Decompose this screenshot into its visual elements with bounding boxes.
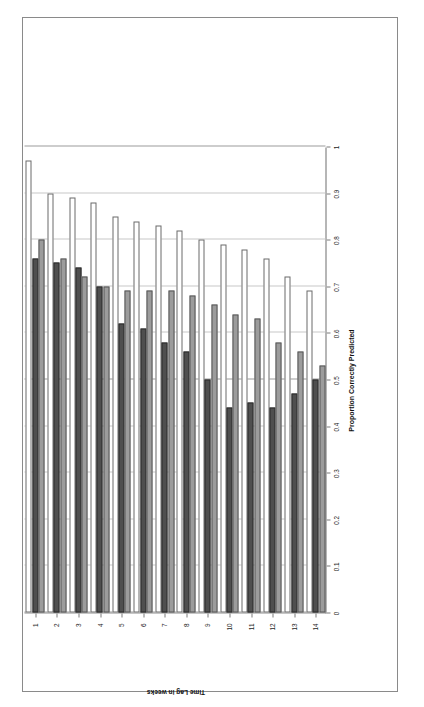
bar-group	[47, 147, 66, 612]
category-tick	[251, 613, 252, 617]
category-tick-label: 13	[290, 623, 297, 630]
category-tick-label: 1	[31, 623, 38, 627]
value-tick	[326, 519, 330, 520]
value-tick-label: 0.8	[332, 236, 339, 245]
bar-group	[112, 147, 131, 612]
category-tick-label: 5	[118, 623, 125, 627]
category-tick	[35, 613, 36, 617]
bar-asymmetric	[232, 314, 238, 612]
category-tick	[56, 613, 57, 617]
value-tick-label: 0.3	[332, 469, 339, 478]
figure-rotation-wrapper: Asymmetric Sole Symmetric Simmelian Prop…	[0, 0, 424, 707]
value-tick-label: 0.5	[332, 376, 339, 385]
category-tick-label: 3	[74, 623, 81, 627]
value-tick-label: 0	[332, 611, 339, 615]
value-tick	[326, 332, 330, 333]
category-tick-label: 11	[247, 623, 254, 630]
bar-sole-symmetric	[118, 323, 124, 612]
category-tick	[164, 613, 165, 617]
value-tick	[326, 612, 330, 613]
value-tick-label: 0.4	[332, 422, 339, 431]
bar-sole-symmetric	[312, 379, 318, 612]
bar-simmelian	[306, 290, 312, 612]
category-tick-label: 12	[269, 623, 276, 630]
category-tick	[78, 613, 79, 617]
bar-simmelian	[90, 202, 96, 612]
category-tick	[207, 613, 208, 617]
value-tick-label: 0.2	[332, 515, 339, 524]
value-tick	[326, 193, 330, 194]
category-tick	[100, 613, 101, 617]
bar-group	[263, 147, 282, 612]
arrow-right-icon: →	[175, 689, 188, 695]
category-tick-label: 4	[96, 623, 103, 627]
bar-sole-symmetric	[291, 393, 297, 612]
bar-sole-symmetric	[96, 286, 102, 612]
bar-simmelian	[220, 244, 226, 612]
bar-simmelian	[47, 193, 53, 612]
bar-sole-symmetric	[53, 263, 59, 613]
category-tick-label: 14	[312, 623, 319, 630]
category-tick-label: 10	[225, 623, 232, 630]
bar-asymmetric	[146, 290, 152, 612]
bar-asymmetric	[254, 318, 260, 612]
category-tick-label: 2	[53, 623, 60, 627]
value-tick-label: 0.9	[332, 189, 339, 198]
gridline-vertical	[24, 145, 325, 146]
plot-area	[24, 147, 326, 613]
category-tick	[121, 613, 122, 617]
value-tick	[326, 565, 330, 566]
bar-asymmetric	[81, 276, 87, 612]
value-tick-label: 0.7	[332, 282, 339, 291]
bar-group	[133, 147, 152, 612]
bar-simmelian	[133, 221, 139, 612]
bar-group	[198, 147, 217, 612]
bar-sole-symmetric	[247, 402, 253, 612]
bar-group	[90, 147, 109, 612]
bar-asymmetric	[103, 286, 109, 612]
bar-sole-symmetric	[32, 258, 38, 612]
category-tick	[229, 613, 230, 617]
category-axis-title-text: Time Lag in weeks	[146, 689, 204, 696]
category-tick-label: 6	[139, 623, 146, 627]
bar-simmelian	[155, 225, 161, 612]
value-tick	[326, 239, 330, 240]
bar-asymmetric	[319, 365, 325, 612]
value-tick-label: 1	[332, 145, 339, 149]
bar-sole-symmetric	[183, 351, 189, 612]
category-tick	[186, 613, 187, 617]
bar-simmelian	[69, 197, 75, 612]
bar-sole-symmetric	[161, 342, 167, 612]
category-tick	[315, 613, 316, 617]
category-tick-label: 8	[182, 623, 189, 627]
value-tick	[326, 146, 330, 147]
bar-simmelian	[198, 239, 204, 612]
value-tick-label: 0.1	[332, 562, 339, 571]
bar-sole-symmetric	[75, 267, 81, 612]
category-tick-label: 7	[161, 623, 168, 627]
bar-simmelian	[263, 258, 269, 612]
bar-chart-figure: Asymmetric Sole Symmetric Simmelian Prop…	[0, 0, 424, 707]
bar-asymmetric	[60, 258, 66, 612]
bar-simmelian	[241, 249, 247, 612]
category-axis-title: ← Time Lag in weeks →	[24, 677, 326, 707]
bar-group	[155, 147, 174, 612]
value-tick	[326, 379, 330, 380]
value-axis: 10.90.80.70.60.50.40.30.20.10	[326, 147, 356, 613]
bar-simmelian	[284, 276, 290, 612]
value-tick-label: 0.6	[332, 329, 339, 338]
value-tick	[326, 472, 330, 473]
bar-group	[176, 147, 195, 612]
bar-group	[241, 147, 260, 612]
bar-sole-symmetric	[140, 328, 146, 612]
bar-asymmetric	[275, 342, 281, 612]
bar-simmelian	[112, 216, 118, 612]
bar-group	[306, 147, 325, 612]
value-tick	[326, 426, 330, 427]
bar-asymmetric	[38, 239, 44, 612]
bar-sole-symmetric	[269, 407, 275, 612]
category-tick	[294, 613, 295, 617]
bar-group	[25, 147, 44, 612]
bar-simmelian	[25, 160, 31, 612]
category-tick	[143, 613, 144, 617]
